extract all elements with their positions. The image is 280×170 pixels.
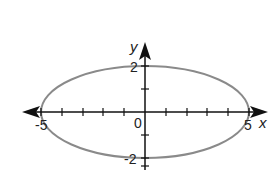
x-tick-label-neg5: -5	[35, 117, 48, 133]
x-tick-label-5: 5	[244, 117, 252, 133]
y-axis-label: y	[129, 38, 139, 55]
y-axis	[139, 42, 151, 170]
y-tick-label-2: 2	[130, 59, 138, 75]
y-tick-label-neg2: -2	[124, 151, 137, 167]
ellipse-graph: y x 2 -2 0 -5 5	[0, 0, 280, 170]
x-axis-label: x	[258, 114, 267, 131]
origin-label: 0	[134, 115, 142, 131]
